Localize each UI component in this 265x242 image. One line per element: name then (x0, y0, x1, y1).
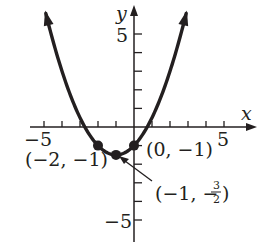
vertex-label-open: (−1, − (155, 182, 218, 204)
axes (30, 5, 257, 242)
x-axis-label: x (241, 102, 252, 124)
vertex-label-close: ) (222, 182, 229, 204)
y-axis-label: y (115, 2, 127, 24)
curve-arrowhead-icon (178, 11, 188, 27)
y-axis-arrow-icon (130, 5, 138, 16)
point-label-neg2-neg1: (−2, −1) (25, 148, 108, 170)
curve-arrowhead-icon (44, 11, 54, 27)
data-point (111, 150, 121, 160)
x-tick-label-5: 5 (217, 128, 229, 150)
point-label-0-neg1: (0, −1) (146, 138, 213, 160)
y-tick-label-5: 5 (116, 24, 128, 46)
x-tick-label-neg5: −5 (24, 128, 52, 150)
y-tick-label-neg5: −5 (104, 210, 132, 232)
data-point (129, 141, 139, 151)
vertex-frac-denominator: 2 (213, 193, 220, 206)
x-axis-arrow-icon (246, 123, 257, 131)
point-label-vertex: (−1, − 3 2 ) (155, 179, 229, 206)
chart-canvas: y x 5 −5 −5 5 (−2, −1) (0, −1) (−1, − 3 … (0, 0, 265, 242)
vertex-frac-numerator: 3 (213, 179, 220, 192)
